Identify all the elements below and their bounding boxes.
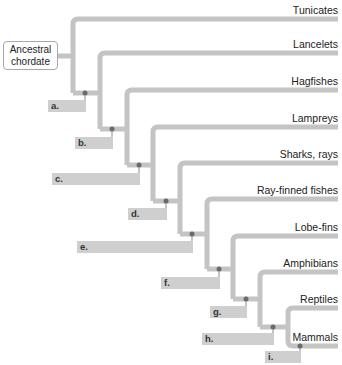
taxon-label-lampreys: Lampreys [292, 112, 338, 124]
ancestral-chordate-box: Ancestral chordate [3, 41, 58, 70]
node-answer-box-h[interactable]: h. [202, 333, 274, 345]
taxon-label-tunicates: Tunicates [293, 4, 338, 16]
node-label-f: f. [164, 277, 170, 288]
node-answer-box-d[interactable]: d. [128, 208, 167, 220]
node-label-a: a. [51, 100, 59, 111]
node-dot-c [137, 163, 142, 168]
node-dot-g [244, 297, 249, 302]
taxon-label-sharks-rays: Sharks, rays [280, 148, 338, 160]
node-answer-box-g[interactable]: g. [210, 306, 247, 318]
taxon-label-mammals: Mammals [292, 331, 338, 343]
taxon-label-lobe-fins: Lobe-fins [295, 221, 338, 233]
node-answer-box-b[interactable]: b. [75, 137, 113, 149]
node-dot-a [83, 91, 88, 96]
node-label-h: h. [205, 333, 213, 344]
taxon-label-amphibians: Amphibians [283, 257, 338, 269]
node-dot-e [190, 232, 195, 237]
node-label-i: i. [268, 351, 273, 362]
root-label: Ancestral chordate [10, 44, 52, 67]
node-answer-box-c[interactable]: c. [52, 173, 140, 185]
node-label-c: c. [55, 173, 63, 184]
node-dot-d [164, 199, 169, 204]
taxon-label-ray-finned-fishes: Ray-finned fishes [257, 184, 338, 196]
node-label-b: b. [78, 137, 86, 148]
node-dot-f [217, 267, 222, 272]
node-answer-box-e[interactable]: e. [77, 241, 193, 253]
taxon-label-reptiles: Reptiles [300, 293, 338, 305]
node-answer-box-f[interactable]: f. [161, 277, 220, 289]
taxon-label-hagfishes: Hagfishes [291, 75, 338, 87]
node-dot-i [298, 344, 303, 349]
node-answer-box-a[interactable]: a. [48, 100, 86, 112]
node-label-e: e. [80, 241, 88, 252]
node-label-d: d. [131, 208, 139, 219]
node-dot-h [271, 325, 276, 330]
node-dot-b [110, 127, 115, 132]
taxon-label-lancelets: Lancelets [293, 38, 338, 50]
node-answer-box-i[interactable]: i. [265, 351, 301, 363]
node-label-g: g. [213, 306, 221, 317]
